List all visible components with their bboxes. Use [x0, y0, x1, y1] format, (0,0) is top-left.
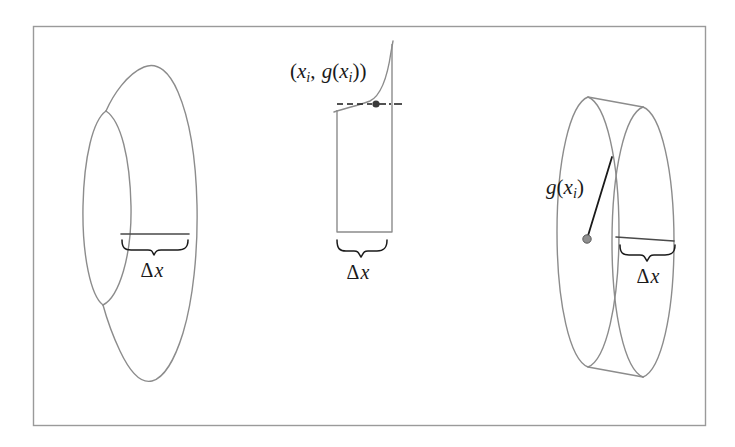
radius-paren-open-glyph: (: [557, 175, 564, 199]
radius-label: g(xi): [546, 175, 584, 201]
x-glyph-disk: x: [649, 265, 659, 287]
comma-glyph: ,: [310, 59, 319, 83]
marked-point-dot: [372, 100, 379, 107]
delta-x-label-rectangle: Δx: [347, 261, 370, 283]
radius-paren-close-glyph: ): [577, 175, 584, 199]
delta-glyph-solid: Δ: [141, 259, 154, 281]
point-coordinate-label: (xi, g(xi)): [290, 59, 367, 85]
delta-glyph-rectangle: Δ: [347, 261, 360, 283]
x-glyph-solid: x: [153, 259, 163, 281]
x-glyph-rectangle: x: [359, 261, 369, 283]
figure-background: [0, 0, 735, 447]
g-glyph-point: g: [322, 59, 333, 83]
g-paren-close-glyph: ): [353, 59, 360, 83]
disk-center-dot: [583, 235, 591, 243]
g-paren-open-glyph: (: [332, 59, 339, 83]
paren-close-glyph: ): [360, 59, 367, 83]
figure-container: Δx (xi, g(xi)) Δx: [0, 0, 735, 447]
disk-method-diagram: Δx (xi, g(xi)) Δx: [0, 0, 735, 447]
delta-x-label-solid: Δx: [141, 259, 164, 281]
g-glyph-radius: g: [546, 175, 557, 199]
delta-glyph-disk: Δ: [637, 265, 650, 287]
delta-x-label-disk: Δx: [637, 265, 660, 287]
paren-open-glyph: (: [290, 59, 297, 83]
